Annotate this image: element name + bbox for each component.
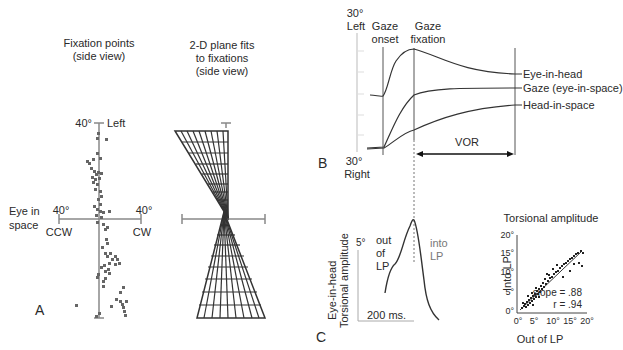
y-tick-20: 20° (500, 230, 514, 240)
left-tick-label: 40° (53, 204, 70, 216)
fixation-title-line2: (side view) (73, 50, 126, 62)
into-lp-line1: into (430, 237, 448, 249)
fixation-title-line1: Fixation points (64, 37, 135, 49)
scale-y-label: 5° (356, 237, 366, 248)
y-tick-10: 10° (500, 267, 514, 277)
legend-eye-in-head: Eye-in-head (523, 68, 582, 80)
eye-in-space-label-line1: Eye in (9, 205, 40, 217)
top-tick-label: 40° (75, 117, 92, 129)
y-top-direction: Left (347, 20, 365, 32)
plane-fit-figure (175, 123, 265, 318)
gaze-fixation-label-line1: Gaze (415, 20, 441, 32)
y-tick-5: 5° (505, 287, 514, 297)
x-tick-0: 0° (514, 316, 523, 326)
scale-x-label: 200 ms. (367, 309, 406, 321)
plane-fit-title-line3: (side view) (196, 65, 249, 77)
eye-in-space-label-line2: space (9, 219, 38, 231)
out-of-lp-line1: out (376, 234, 391, 246)
y-tick-0: 0° (505, 306, 514, 316)
plane-fit-title-line1: 2-D plane fits (190, 39, 255, 51)
x-tick-20: 20° (580, 316, 594, 326)
gaze-trace (367, 88, 515, 148)
r-annotation: r = .94 (553, 299, 582, 310)
panel-c: Eye-in-head Torsional amplitude C 5° 200… (316, 220, 448, 345)
left-label: Left (107, 117, 125, 129)
y-tick-15: 15° (500, 248, 514, 258)
scatter-title: Torsional amplitude (504, 212, 599, 224)
x-tick-5: 5° (530, 316, 539, 326)
gaze-onset-label-line1: Gaze (372, 20, 398, 32)
legend-head-in-space: Head-in-space (523, 99, 595, 111)
ccw-label: CCW (46, 226, 73, 238)
into-lp-line2: LP (430, 250, 443, 262)
panel-b-letter: B (318, 155, 327, 171)
panel-a: Fixation points (side view) 2-D plane fi… (9, 37, 265, 318)
y-top-degree: 30° (347, 7, 364, 19)
x-tick-10: 10° (546, 316, 560, 326)
torsion-trace (385, 220, 439, 320)
panel-a-letter: A (35, 302, 45, 318)
slope-annotation: slope = .88 (533, 287, 583, 298)
torsional-scatter-chart: Torsional amplitude Into LP Out of LP 20… (500, 212, 598, 345)
scatter-x-label: Out of LP (517, 333, 563, 345)
gaze-onset-label-line2: onset (372, 33, 399, 45)
figure: Fixation points (side view) 2-D plane fi… (0, 0, 623, 350)
out-of-lp-line3: LP (376, 260, 389, 272)
panel-c-letter: C (316, 329, 326, 345)
out-of-lp-line2: of (376, 247, 386, 259)
plane-fit-title-line2: to fixations (196, 52, 249, 64)
gaze-fixation-label-line2: fixation (411, 33, 446, 45)
vor-label: VOR (455, 136, 479, 148)
legend-gaze: Gaze (eye-in-space) (523, 82, 623, 94)
right-tick-label: 40° (136, 204, 153, 216)
y-bottom-direction: Right (344, 168, 370, 180)
fixation-points (75, 132, 128, 318)
x-tick-15: 15° (563, 316, 577, 326)
y-label-line2: Torsional amplitude (338, 233, 350, 328)
y-bottom-degree: 30° (346, 155, 363, 167)
y-label-line1: Eye-in-head (326, 261, 338, 320)
head-in-space-trace (367, 105, 515, 149)
cw-label: CW (133, 226, 152, 238)
